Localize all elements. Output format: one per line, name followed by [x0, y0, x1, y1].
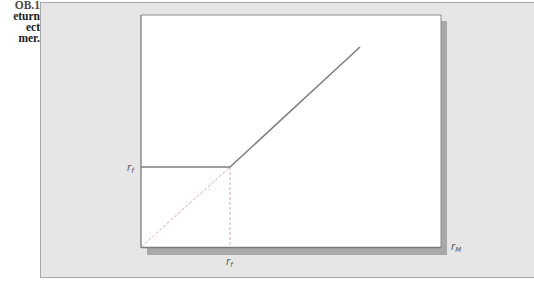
y-tick-rf-label: rf — [127, 162, 135, 175]
plot-area — [141, 15, 441, 248]
payoff-chart: rf rf rM — [0, 0, 534, 281]
x-axis-label-rM: rM — [451, 241, 461, 254]
x-tick-rf-label: rf — [226, 256, 234, 269]
